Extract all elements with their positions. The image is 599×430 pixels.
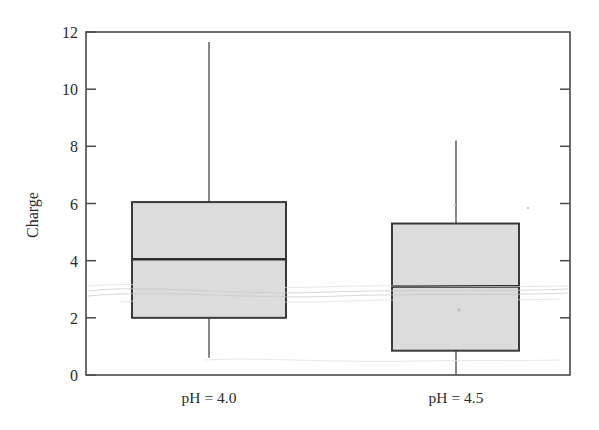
y-axis-tick-labels: 0 2 4 6 8 10 12 <box>62 24 78 384</box>
y-tick-label-2: 2 <box>70 310 78 327</box>
chart-canvas: 0 2 4 6 8 10 12 Charge <box>0 0 599 430</box>
y-tick-label-12: 12 <box>62 24 78 41</box>
y-tick-label-10: 10 <box>62 81 78 98</box>
category-label-ph-4-0: pH = 4.0 <box>182 389 237 406</box>
y-tick-label-4: 4 <box>70 253 78 270</box>
y-axis-ticks-left <box>86 32 96 375</box>
category-label-ph-4-5: pH = 4.5 <box>429 389 484 406</box>
y-tick-label-8: 8 <box>70 138 78 155</box>
scan-streak-5 <box>205 359 560 361</box>
speck-1 <box>458 309 461 312</box>
boxplot-ph-4-5 <box>392 141 519 375</box>
x-axis-category-labels: pH = 4.0 pH = 4.5 <box>182 389 484 406</box>
y-tick-label-0: 0 <box>70 367 78 384</box>
y-axis-title: Charge <box>24 192 42 238</box>
y-tick-label-6: 6 <box>70 196 78 213</box>
boxplot-figure: 0 2 4 6 8 10 12 Charge <box>0 0 599 430</box>
speck-2 <box>454 204 456 206</box>
y-axis-ticks-right <box>560 89 570 318</box>
boxplot-ph-4-0 <box>132 42 286 358</box>
speck-3 <box>527 207 529 209</box>
